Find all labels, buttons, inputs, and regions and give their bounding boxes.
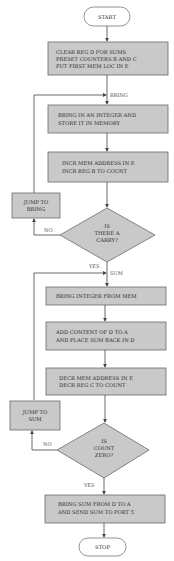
jump-to-sum: JUMP TO SUM — [10, 401, 60, 430]
flowchart: START CLEAR REG D FOR SUMS PRESET COUNTE… — [0, 0, 174, 561]
jump-to-bring: JUMP TO BRING — [12, 193, 60, 218]
step-text: INCR MEM ADDRESS IN E — [62, 160, 135, 166]
yes-label: YES — [83, 482, 95, 488]
step-text: BRING SUM FROM D TO A — [58, 501, 131, 507]
step-text: AND SEND SUM TO PORT 5 — [57, 509, 134, 515]
step-text: DECR REG C TO COUNT — [59, 382, 126, 388]
stop-terminal: STOP — [79, 538, 126, 556]
yes-label: YES — [88, 263, 100, 269]
step-text: PRESET COUNTERS B AND C — [56, 56, 137, 62]
jump-text: JUMP TO — [22, 409, 48, 416]
decision-text: IS — [101, 438, 107, 444]
step-text: AND PLACE SUM BACK IN D — [55, 337, 135, 343]
decision-text: CARRY? — [96, 237, 118, 243]
step-fetch: BRING INTEGER FROM MEM — [46, 287, 166, 305]
start-terminal: START — [84, 7, 130, 26]
jump-text: SUM — [28, 416, 42, 422]
no-label: NO — [43, 441, 51, 447]
step-text: DECR MEM ADDRESS IN E — [59, 375, 133, 381]
step-add: ADD CONTENT OF D TO A AND PLACE SUM BACK… — [46, 322, 166, 350]
step-text: ADD CONTENT OF D TO A — [55, 329, 128, 335]
step-bring: BRING IN AN INTEGER AND STORE IT IN MEMO… — [48, 105, 168, 133]
decision-text: ZERO? — [95, 452, 114, 458]
decision-count-zero: IS COUNT ZERO? — [57, 423, 149, 478]
step-text: BRING IN AN INTEGER AND — [58, 112, 136, 118]
step-text: PUT FIRST MEM LOC IN E — [56, 63, 129, 69]
decision-carry: IS THERE A CARRY? — [60, 208, 155, 262]
decision-text: IS — [104, 223, 110, 229]
no-label: NO — [44, 227, 52, 233]
jump-text: JUMP TO — [23, 199, 49, 206]
step-decr: DECR MEM ADDRESS IN E DECR REG C TO COUN… — [46, 368, 166, 395]
jump-text: BRING — [27, 206, 45, 212]
decision-text: COUNT — [94, 445, 115, 451]
bring-label: BRING — [110, 92, 128, 98]
step-incr: INCR MEM ADDRESS IN E INCR REG B TO COUN… — [48, 152, 168, 182]
step-text: INCR REG B TO COUNT — [62, 168, 128, 174]
step-init: CLEAR REG D FOR SUMS PRESET COUNTERS B A… — [48, 42, 168, 75]
stop-label: STOP — [95, 544, 110, 550]
step-text: CLEAR REG D FOR SUMS — [56, 49, 126, 55]
step-output: BRING SUM FROM D TO A AND SEND SUM TO PO… — [45, 495, 165, 523]
sum-label: SUM — [110, 270, 123, 276]
step-text: STORE IT IN MEMORY — [58, 120, 120, 126]
step-text: BRING INTEGER FROM MEM — [56, 293, 137, 299]
decision-text: THERE A — [95, 230, 120, 236]
start-label: START — [98, 14, 116, 20]
